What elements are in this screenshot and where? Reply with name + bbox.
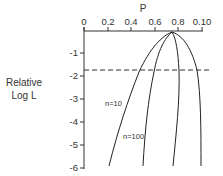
y-axis-title-line2: Log L — [11, 90, 36, 101]
series-label-n10: n=10 — [105, 99, 122, 108]
y-tick-label: -4 — [70, 116, 78, 127]
x-tick-label: 0 — [81, 16, 86, 27]
y-axis-title-line1: Relative — [6, 77, 43, 88]
axes — [80, 27, 203, 169]
series-label-n100: n=100 — [123, 132, 144, 141]
y-tick-label: -5 — [70, 139, 78, 150]
x-tick-label: 0.10 — [193, 16, 212, 27]
x-axis-title: P — [140, 3, 147, 14]
x-tick-label: 0.4 — [124, 16, 137, 27]
y-tick-label: -1 — [70, 47, 78, 58]
x-tick-labels: 0 0.2 0.4 0.6 0.8 0.10 — [81, 16, 211, 27]
y-tick-label: -3 — [70, 93, 78, 104]
series-n10-curve — [109, 32, 201, 166]
y-tick-labels: -1 -2 -3 -4 -5 -6 — [70, 47, 78, 173]
x-tick-label: 0.6 — [148, 16, 161, 27]
x-tick-label: 0.2 — [101, 16, 114, 27]
y-tick-label: -6 — [70, 162, 78, 173]
likelihood-chart: P 0 0.2 0.4 0.6 0.8 0.10 -1 -2 -3 -4 -5 … — [0, 0, 223, 176]
series-n100-curve — [143, 32, 179, 166]
y-tick-label: -2 — [70, 70, 78, 81]
x-tick-label: 0.8 — [171, 16, 184, 27]
